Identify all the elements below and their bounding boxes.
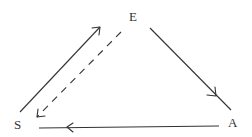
node-e-label: E xyxy=(129,9,137,24)
edge-e-to-s-dashed xyxy=(37,32,121,117)
edge-e-to-a xyxy=(150,28,231,110)
node-a-label: A xyxy=(228,115,238,130)
arrowhead-icon xyxy=(207,87,216,96)
edge-s-to-e xyxy=(20,27,100,112)
edge-a-to-s xyxy=(39,123,219,132)
node-s-label: S xyxy=(14,117,21,132)
cycle-diagram: E S A xyxy=(0,0,252,137)
